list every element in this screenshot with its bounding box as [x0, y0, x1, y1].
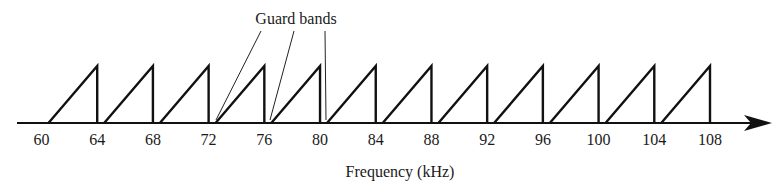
tick-labels: 60646872768084889296100104108: [34, 131, 723, 148]
tick-label: 92: [479, 131, 495, 148]
tick-label: 100: [587, 131, 611, 148]
channel-triangle: [494, 66, 543, 123]
tick-label: 72: [201, 131, 217, 148]
channel-triangle: [550, 66, 599, 123]
fdm-spectrum-diagram: 60646872768084889296100104108 Guard band…: [0, 0, 784, 193]
channel-triangle: [160, 66, 209, 123]
tick-label: 80: [312, 131, 328, 148]
tick-label: 104: [642, 131, 666, 148]
channel-triangle: [216, 66, 265, 123]
channel-spectra: [48, 66, 710, 123]
channel-triangle: [606, 66, 655, 123]
guard-bands-annotation: Guard bands: [216, 10, 337, 120]
tick-label: 64: [89, 131, 105, 148]
guard-bands-label: Guard bands: [255, 10, 336, 27]
axis-title: Frequency (kHz): [346, 163, 455, 181]
channel-triangle: [438, 66, 487, 123]
tick-label: 60: [34, 131, 50, 148]
channel-triangle: [271, 66, 320, 123]
guard-band-pointer-2: [270, 31, 294, 120]
frequency-axis: [17, 115, 772, 131]
guard-band-pointer-3: [325, 31, 326, 120]
tick-label: 68: [145, 131, 161, 148]
guard-band-pointer-1: [216, 31, 261, 120]
tick-label: 84: [368, 131, 384, 148]
channel-triangle: [104, 66, 153, 123]
tick-label: 76: [256, 131, 272, 148]
channel-triangle: [383, 66, 432, 123]
tick-label: 96: [535, 131, 551, 148]
channel-triangle: [661, 66, 710, 123]
tick-label: 88: [424, 131, 440, 148]
channel-triangle: [48, 66, 97, 123]
channel-triangle: [327, 66, 376, 123]
tick-label: 108: [698, 131, 722, 148]
